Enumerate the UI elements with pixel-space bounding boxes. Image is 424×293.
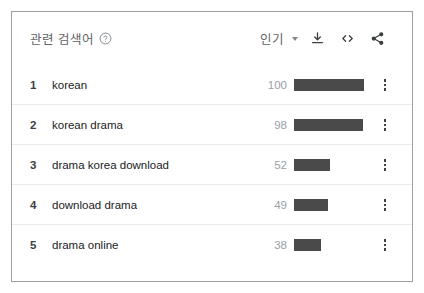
row-query-term[interactable]: download drama bbox=[52, 199, 261, 211]
help-circle-icon[interactable] bbox=[99, 32, 112, 45]
embed-code-icon bbox=[340, 31, 355, 46]
sort-dropdown-label: 인기 bbox=[260, 29, 284, 48]
related-queries-card: 관련 검색어 인기 bbox=[11, 11, 413, 282]
row-rank: 2 bbox=[30, 119, 52, 131]
row-query-term[interactable]: drama korea download bbox=[52, 159, 261, 171]
row-bar-fill bbox=[294, 119, 363, 131]
row-rank: 3 bbox=[30, 159, 52, 171]
row-query-term[interactable]: korean drama bbox=[52, 119, 261, 131]
row-value: 98 bbox=[261, 119, 287, 131]
download-icon bbox=[310, 31, 325, 46]
table-row[interactable]: 3drama korea download52 bbox=[12, 145, 412, 185]
row-bar-fill bbox=[294, 159, 330, 171]
row-query-term[interactable]: korean bbox=[52, 79, 261, 91]
row-value: 100 bbox=[261, 79, 287, 91]
table-row[interactable]: 2korean drama98 bbox=[12, 105, 412, 145]
embed-button[interactable] bbox=[332, 24, 362, 54]
row-value: 38 bbox=[261, 239, 287, 251]
card-header: 관련 검색어 인기 bbox=[12, 12, 412, 65]
more-vertical-icon[interactable] bbox=[372, 192, 398, 218]
card-title-group: 관련 검색어 bbox=[30, 29, 260, 48]
more-vertical-icon[interactable] bbox=[372, 72, 398, 98]
row-query-term[interactable]: drama online bbox=[52, 239, 261, 251]
row-rank: 5 bbox=[30, 239, 52, 251]
row-bar-fill bbox=[294, 79, 364, 91]
row-bar-fill bbox=[294, 199, 328, 211]
table-row[interactable]: 4download drama49 bbox=[12, 185, 412, 225]
row-bar-track bbox=[294, 159, 364, 171]
row-rank: 1 bbox=[30, 79, 52, 91]
more-vertical-icon[interactable] bbox=[372, 232, 398, 258]
row-bar-track bbox=[294, 239, 364, 251]
query-list: 1korean1002korean drama983drama korea do… bbox=[12, 65, 412, 281]
sort-dropdown[interactable]: 인기 bbox=[260, 29, 302, 48]
card-actions: 인기 bbox=[260, 24, 392, 54]
row-bar-track bbox=[294, 79, 364, 91]
row-bar-track bbox=[294, 119, 364, 131]
share-icon bbox=[370, 31, 385, 46]
row-value: 52 bbox=[261, 159, 287, 171]
row-value: 49 bbox=[261, 199, 287, 211]
share-button[interactable] bbox=[362, 24, 392, 54]
table-row[interactable]: 1korean100 bbox=[12, 65, 412, 105]
row-bar-fill bbox=[294, 239, 321, 251]
download-button[interactable] bbox=[302, 24, 332, 54]
row-bar-track bbox=[294, 199, 364, 211]
table-row[interactable]: 5drama online38 bbox=[12, 225, 412, 265]
page-title: 관련 검색어 bbox=[30, 29, 94, 48]
row-rank: 4 bbox=[30, 199, 52, 211]
more-vertical-icon[interactable] bbox=[372, 112, 398, 138]
more-vertical-icon[interactable] bbox=[372, 152, 398, 178]
chevron-down-icon bbox=[292, 37, 298, 41]
